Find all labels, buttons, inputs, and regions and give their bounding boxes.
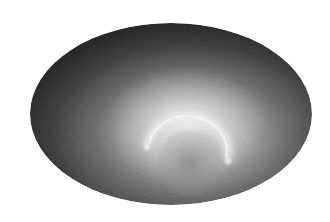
grain-overlay <box>0 0 330 222</box>
sky-ellipse <box>0 0 330 222</box>
sky-projection <box>0 0 330 222</box>
